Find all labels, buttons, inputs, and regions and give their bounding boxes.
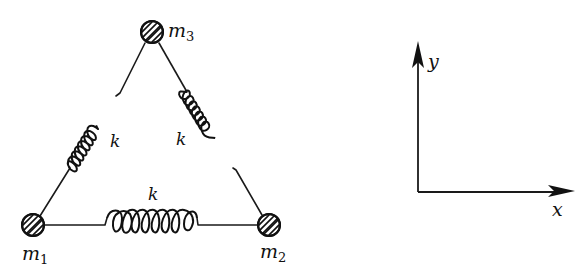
spring-m1-m3 [40, 43, 145, 216]
mass-label-m1: m1 [22, 242, 48, 267]
spring-m1-m2 [44, 210, 258, 233]
diagram-canvas: k k k m1 m2 [0, 0, 587, 274]
wire-m3-right-spring [159, 43, 187, 92]
spring-m3-m2 [159, 43, 262, 215]
mass-m3 [138, 18, 168, 48]
mass-label-m3: m3 [168, 19, 194, 44]
y-axis-label: y [427, 50, 439, 72]
spring-label-left: k [110, 131, 120, 151]
wire-bottom-spring-m2 [197, 218, 258, 225]
bottom-spring-coil [107, 210, 197, 233]
x-axis-arrow-icon [548, 185, 575, 197]
wire-right-spring-m2 [233, 168, 262, 215]
wire-left-spring-m3 [116, 43, 145, 96]
left-spring-coil [65, 122, 102, 172]
x-axis-label: x [552, 198, 563, 220]
mass-m1 [19, 211, 49, 241]
wire-m1-left-spring [40, 168, 70, 216]
wire-m1-bottom-spring [44, 218, 107, 225]
spring-label-right: k [176, 129, 186, 149]
spring-label-bottom: k [148, 184, 158, 204]
mass-m2 [255, 211, 285, 241]
mass-label-m2: m2 [260, 240, 286, 265]
